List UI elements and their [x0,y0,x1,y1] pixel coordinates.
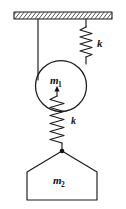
mass-bottom-subscript: 2 [61,180,65,189]
physics-diagram-figure: k m 1 k m 2 [0,0,126,209]
spring-lower [50,96,64,150]
mass-pentagon [27,151,97,200]
diagram-canvas: k m 1 k m 2 [0,0,126,209]
spring-right-label: k [97,37,103,49]
ceiling-support [10,11,117,20]
mass-top-subscript: 1 [58,80,62,89]
spring-right [80,27,92,64]
spring-lower-label: k [71,115,76,126]
